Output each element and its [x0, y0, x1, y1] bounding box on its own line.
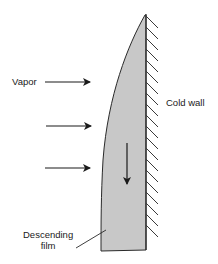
wall-hatching — [146, 16, 158, 237]
descending-film-label: Descending film — [23, 229, 73, 251]
condensation-diagram: Vapor Cold wall Descending film — [0, 0, 218, 264]
vapor-label: Vapor — [12, 76, 37, 87]
descending-film-shape — [101, 15, 146, 251]
film-label-line2: film — [23, 240, 73, 251]
diagram-graphic — [0, 0, 218, 264]
cold-wall-label: Cold wall — [166, 97, 205, 108]
film-label-line1: Descending — [23, 229, 73, 240]
